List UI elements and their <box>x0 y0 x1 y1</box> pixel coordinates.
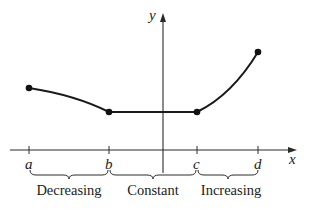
function-behavior-diagram: x y a b c d Decreasing Constant Increasi… <box>0 0 314 212</box>
y-axis-arrow-icon <box>160 13 166 22</box>
tick-label-b: b <box>105 156 113 172</box>
point-b <box>106 109 113 116</box>
y-axis-label: y <box>147 7 156 23</box>
x-axis-label: x <box>288 151 296 167</box>
brace-constant <box>110 170 196 179</box>
point-a <box>26 85 33 92</box>
brace-decreasing <box>30 170 108 179</box>
brace-increasing <box>198 170 258 179</box>
increasing-curve <box>197 52 258 112</box>
interval-label-decreasing: Decreasing <box>36 182 101 198</box>
interval-label-constant: Constant <box>127 182 179 198</box>
point-c <box>194 109 201 116</box>
interval-label-increasing: Increasing <box>201 182 261 198</box>
decreasing-curve <box>29 88 109 112</box>
tick-label-c: c <box>193 156 200 172</box>
tick-label-a: a <box>25 156 33 172</box>
tick-label-d: d <box>254 156 262 172</box>
point-d <box>255 49 262 56</box>
